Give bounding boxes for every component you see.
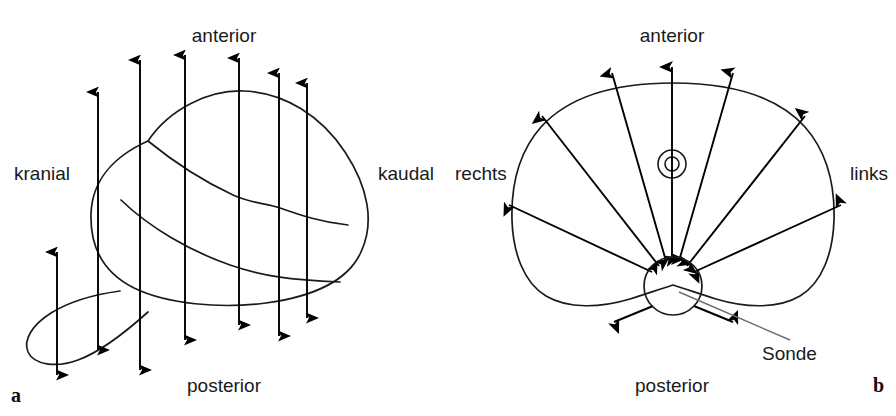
label-posterior-b: posterior [635, 375, 710, 396]
label-anterior-a: anterior [192, 25, 257, 46]
panel-letter-b: b [873, 374, 884, 396]
panel-letter-a: a [11, 384, 21, 406]
fan-arrow-left-mid [542, 116, 659, 266]
fan-arrow-left-outer [509, 205, 652, 272]
ultrasound-scan-planes-figure: anterior posterior kranial kaudal a [0, 0, 896, 416]
liver-outline-main [91, 91, 368, 305]
fan-arrow-right-mid [687, 116, 805, 266]
panel-a-longitudinal: anterior posterior kranial kaudal a [0, 0, 448, 416]
label-posterior-a: posterior [187, 375, 262, 396]
liver-outline-tail-lobe [27, 291, 148, 364]
label-kaudal: kaudal [378, 163, 434, 184]
label-kranial: kranial [14, 163, 70, 184]
probe-circle [644, 257, 702, 315]
label-sonde: Sonde [762, 343, 817, 364]
label-anterior-b: anterior [640, 25, 705, 46]
fan-beam-arrow-group [509, 67, 841, 322]
fan-arrow-right-outer [694, 205, 841, 272]
label-rechts: rechts [455, 163, 507, 184]
fan-arrow-lower-right [694, 306, 733, 322]
fan-arrow-lower-left [614, 306, 653, 322]
fan-arrow-right-inner [679, 73, 733, 261]
panel-b-transverse: anterior posterior rechts links Sonde b [448, 0, 896, 416]
abdomen-outline [512, 83, 834, 306]
sonde-leader-line [679, 292, 790, 340]
liver-fissure-upper [148, 141, 348, 225]
label-links: links [850, 163, 888, 184]
scan-plane-arrow-group [57, 55, 307, 375]
